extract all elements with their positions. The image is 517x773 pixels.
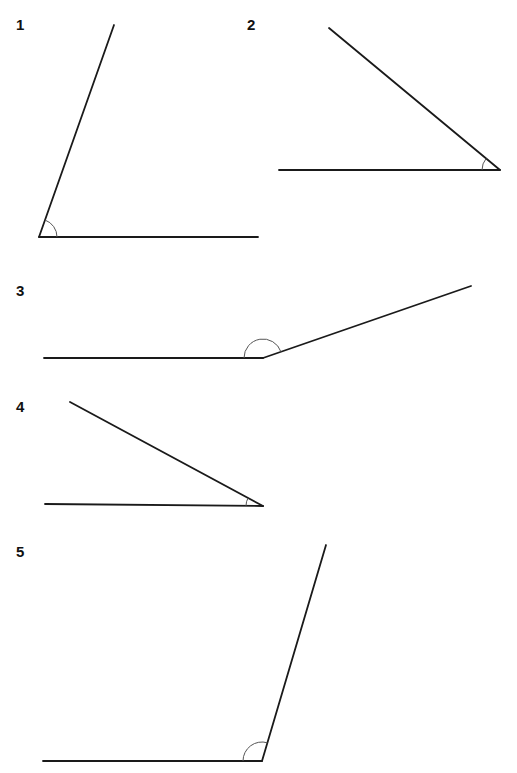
angle-4-ray-a — [45, 504, 263, 506]
angles-group — [39, 25, 500, 761]
angle-3 — [44, 286, 471, 358]
angle-4-arc — [246, 498, 248, 506]
angle-5 — [43, 545, 326, 761]
angle-1-ray-b — [39, 25, 114, 237]
angle-2-arc — [482, 159, 486, 170]
angle-5-ray-b — [262, 545, 326, 761]
angle-1 — [39, 25, 258, 237]
angle-2 — [279, 28, 500, 170]
angle-1-arc — [45, 220, 57, 237]
angle-4-ray-b — [70, 402, 263, 506]
angle-4 — [45, 402, 263, 506]
angle-3-ray-b — [263, 286, 471, 358]
angle-2-ray-b — [329, 28, 500, 170]
angle-3-arc — [244, 339, 281, 358]
angles-diagram — [0, 0, 517, 773]
